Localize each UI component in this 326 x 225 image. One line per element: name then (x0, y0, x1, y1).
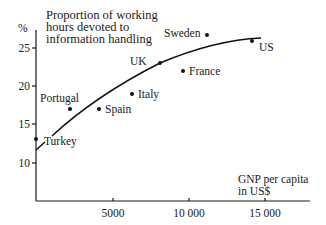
point-spain: Spain (97, 103, 131, 116)
svg-text:France: France (189, 65, 220, 77)
svg-text:Spain: Spain (105, 103, 131, 116)
svg-text:US: US (259, 41, 274, 53)
svg-text:UK: UK (130, 55, 147, 67)
svg-text:Portugal: Portugal (40, 92, 79, 105)
y-tick-15: 15 (19, 118, 31, 130)
point-us: US (250, 39, 274, 53)
point-france: France (181, 65, 220, 77)
y-ticks: 25 20 15 10 (19, 42, 37, 169)
point-sweden: Sweden (164, 27, 209, 39)
x-tick-15000: 15 000 (249, 207, 281, 219)
point-portugal: Portugal (40, 92, 79, 111)
x-axis-label: GNP per capita in US$ (238, 173, 308, 197)
svg-text:Italy: Italy (138, 88, 159, 101)
y-tick-10: 10 (19, 157, 31, 169)
y-tick-20: 20 (19, 80, 31, 92)
point-italy: Italy (130, 88, 159, 101)
scatter-chart: Proportion of working hours devoted to i… (0, 0, 326, 225)
title-line-3: information handling (46, 32, 153, 46)
svg-text:Sweden: Sweden (164, 27, 201, 39)
chart-title: Proportion of working hours devoted to i… (46, 8, 159, 46)
x-tick-10000: 10 000 (173, 207, 205, 219)
svg-text:Turkey: Turkey (44, 135, 77, 148)
y-tick-25: 25 (19, 42, 31, 54)
x-label-line-2: in US$ (238, 185, 271, 197)
x-tick-5000: 5000 (102, 207, 125, 219)
y-axis-label: % (18, 22, 28, 34)
